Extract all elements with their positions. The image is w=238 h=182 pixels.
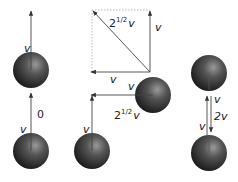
label-v-square-bottom: v [110,73,117,86]
label-v-bottom-middle: v [83,123,90,136]
label-v-top-right: v [214,93,221,106]
label-relative-zero: 0 [37,108,44,121]
label-2v-relative: 2v [214,110,228,123]
scene-perpendicular: 21/2v v v v v 21/2v [74,10,171,169]
scene-parallel: v v 0 [13,11,49,169]
label-v-bottom-left: v [20,123,27,136]
label-v-top-middle: v [128,80,135,93]
label-root2-v-square: 21/2v [109,16,135,30]
scene-head-on: v 2v v [191,55,228,171]
label-v-top-left: v [24,42,31,55]
diagram-canvas: v v 0 21/2v v v v v 21/2v [0,0,238,182]
label-v-bottom-right: v [199,120,206,133]
label-root2-v-relative: 21/2v [114,108,140,122]
label-v-square-side: v [155,21,162,34]
